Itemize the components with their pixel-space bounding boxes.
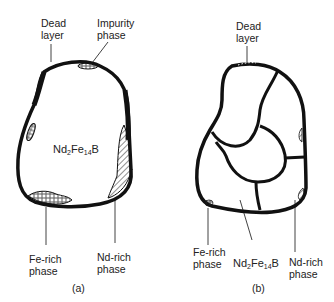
grain-b [197, 46, 306, 252]
caption-b: (b) [252, 282, 265, 294]
label-compound-a: Nd2Fe14B [53, 143, 99, 159]
label-dead-layer-a: Dead layer [41, 17, 66, 41]
label-impurity-phase-a: Impurity phase [97, 17, 134, 41]
label-compound-b: Nd2Fe14B [233, 257, 279, 273]
label-nd-rich-phase-a: Nd-rich phase [97, 251, 131, 275]
caption-a: (a) [72, 282, 85, 294]
fe-rich-phase-b [205, 200, 213, 206]
label-fe-rich-phase-a: Fe-rich phase [29, 253, 62, 277]
label-dead-layer-b: Dead layer [236, 20, 261, 44]
label-fe-rich-phase-b: Fe-rich phase [193, 246, 226, 270]
label-nd-rich-phase-b: Nd-rich phase [289, 256, 323, 280]
impurity-phase-a [78, 63, 98, 69]
